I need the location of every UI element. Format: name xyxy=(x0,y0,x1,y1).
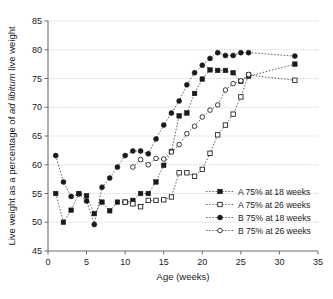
data-point-s3-10 xyxy=(208,108,213,113)
data-point-s1-1 xyxy=(131,202,135,206)
data-point-s0-21 xyxy=(215,68,220,73)
data-point-s3-14 xyxy=(239,79,244,84)
data-point-s2-17 xyxy=(184,82,189,87)
legend-sample-marker xyxy=(218,189,223,194)
data-point-s2-18 xyxy=(192,70,197,75)
data-point-s2-1 xyxy=(61,180,66,185)
data-point-s2-4 xyxy=(84,198,89,203)
data-point-s2-26 xyxy=(292,54,297,59)
data-point-s1-15 xyxy=(239,95,243,99)
data-point-s2-8 xyxy=(115,165,120,170)
data-point-s2-14 xyxy=(161,123,166,128)
legend-label-0: A 75% at 18 weeks xyxy=(235,187,310,197)
data-point-s0-4 xyxy=(84,194,89,199)
data-point-s3-11 xyxy=(215,103,220,108)
data-point-s1-7 xyxy=(177,171,181,175)
chart-figure: 455055606570758085 05101520253035 Age (w… xyxy=(0,0,333,299)
y-tick-label-85: 85 xyxy=(32,16,42,26)
y-axis-title: Live weight as a percentage of ad libitu… xyxy=(6,26,17,246)
legend-item-2[interactable]: B 75% at 18 weeks xyxy=(205,211,331,224)
data-point-s1-0 xyxy=(123,200,127,204)
data-point-s3-12 xyxy=(223,88,228,93)
y-axis-title-part-0: Live weight as a percentage of xyxy=(6,114,17,246)
legend-marker-filled-circle xyxy=(205,212,235,223)
y-tick-label-70: 70 xyxy=(32,102,42,112)
data-point-s0-7 xyxy=(107,208,112,213)
data-point-s3-2 xyxy=(146,162,151,167)
data-point-s2-9 xyxy=(123,153,128,158)
legend-sample-marker xyxy=(218,202,222,206)
data-point-s3-8 xyxy=(192,124,197,129)
data-point-s0-16 xyxy=(177,114,182,119)
data-point-s2-12 xyxy=(146,151,151,156)
data-point-s1-8 xyxy=(185,171,189,175)
y-tick-label-50: 50 xyxy=(32,217,42,227)
data-point-s0-23 xyxy=(231,70,236,75)
data-point-s2-19 xyxy=(200,63,205,68)
chart-legend: A 75% at 18 weeksA 75% at 26 weeksB 75% … xyxy=(205,185,331,237)
data-point-s1-14 xyxy=(231,112,235,116)
x-tick-label-20: 20 xyxy=(197,257,207,267)
x-tick-label-0: 0 xyxy=(45,257,50,267)
x-axis-title: Age (weeks) xyxy=(157,271,210,282)
data-point-s3-5 xyxy=(169,150,174,155)
x-tick-label-5: 5 xyxy=(84,257,89,267)
data-point-s1-4 xyxy=(154,198,158,202)
data-point-s2-6 xyxy=(100,185,105,190)
data-point-s0-19 xyxy=(200,77,205,82)
data-point-s0-13 xyxy=(154,180,159,185)
y-tick-label-55: 55 xyxy=(32,189,42,199)
x-tick-label-10: 10 xyxy=(120,257,130,267)
data-point-s3-13 xyxy=(231,81,236,86)
data-point-s3-9 xyxy=(200,115,205,120)
legend-sample-marker xyxy=(218,215,223,220)
data-point-s0-1 xyxy=(61,220,66,225)
data-point-s0-8 xyxy=(115,200,120,205)
data-point-s2-16 xyxy=(177,98,182,103)
y-axis-title-part-1: ad libitum xyxy=(6,73,17,114)
data-point-s3-0 xyxy=(131,165,136,170)
legend-sample-2 xyxy=(205,212,235,223)
y-tick-label-45: 45 xyxy=(32,246,42,256)
data-point-s1-9 xyxy=(192,174,196,178)
x-tick-label-25: 25 xyxy=(236,257,246,267)
data-point-s1-17 xyxy=(293,78,297,82)
data-point-s2-15 xyxy=(169,111,174,116)
data-point-s1-6 xyxy=(169,195,173,199)
data-point-s3-7 xyxy=(185,131,190,136)
data-point-s2-0 xyxy=(53,153,58,158)
data-point-s0-2 xyxy=(69,208,74,213)
data-point-s0-14 xyxy=(161,163,166,168)
legend-item-0[interactable]: A 75% at 18 weeks xyxy=(205,185,331,198)
data-point-s0-0 xyxy=(53,191,58,196)
x-tick-label-30: 30 xyxy=(274,257,284,267)
data-point-s2-11 xyxy=(138,148,143,153)
data-point-s0-6 xyxy=(100,200,105,205)
data-point-s0-22 xyxy=(223,68,228,73)
data-point-s2-2 xyxy=(69,194,74,199)
data-point-s2-25 xyxy=(246,50,251,55)
y-tick-label-80: 80 xyxy=(32,45,42,55)
x-tick-label-35: 35 xyxy=(313,257,323,267)
data-point-s0-17 xyxy=(185,111,190,116)
data-point-s2-5 xyxy=(92,222,97,227)
legend-item-3[interactable]: B 75% at 26 weeks xyxy=(205,224,331,237)
data-point-s2-10 xyxy=(130,148,135,153)
data-point-s0-20 xyxy=(208,68,213,73)
legend-sample-1 xyxy=(205,199,235,210)
data-point-s3-15 xyxy=(246,72,251,77)
legend-sample-marker xyxy=(218,228,223,233)
data-point-s1-3 xyxy=(146,198,150,202)
y-axis-ticks: 455055606570758085 xyxy=(32,16,48,256)
data-point-s2-21 xyxy=(215,50,220,55)
data-point-s1-11 xyxy=(208,151,212,155)
legend-sample-3 xyxy=(205,225,235,236)
legend-marker-open-square xyxy=(205,199,235,210)
x-axis-ticks: 05101520253035 xyxy=(45,251,323,267)
y-tick-label-65: 65 xyxy=(32,131,42,141)
y-tick-label-75: 75 xyxy=(32,74,42,84)
data-point-s0-12 xyxy=(146,191,151,196)
data-point-s1-10 xyxy=(200,167,204,171)
data-point-s3-6 xyxy=(177,142,182,147)
legend-item-1[interactable]: A 75% at 26 weeks xyxy=(205,198,331,211)
